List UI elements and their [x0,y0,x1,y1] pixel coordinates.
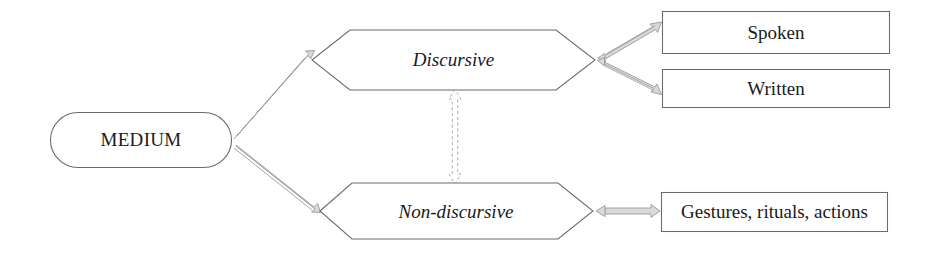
edge-discursive-to-written [598,58,662,95]
edge-medium-to-non-discursive [234,145,321,213]
diagram-graphics [0,0,938,255]
edge-medium-to-discursive [234,51,315,140]
node-non-discursive[interactable] [320,183,593,239]
edge-discursive-to-spoken [598,22,662,62]
node-discursive[interactable] [312,30,595,90]
node-medium[interactable] [51,113,232,168]
edge-discursive-to-non-discursive-dashed [449,89,461,184]
node-gestures[interactable] [662,193,888,232]
node-written[interactable] [663,70,890,108]
diagram-canvas: MEDIUM Discursive Non-discursive Spoken … [0,0,938,255]
edge-non-discursive-to-gestures [596,205,660,218]
node-spoken[interactable] [663,12,890,54]
